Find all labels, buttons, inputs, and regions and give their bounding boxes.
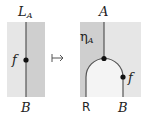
right-region (26, 22, 45, 97)
right-top-label: A (99, 5, 108, 18)
right-bottom-right-label: B (118, 101, 128, 114)
morphism-dot (23, 57, 28, 62)
right-bottom-left-label: R (82, 101, 90, 113)
maps-to-arrow (52, 54, 63, 62)
unit-dot (101, 56, 106, 61)
left-bottom-label: B (21, 101, 31, 114)
morphism-dot (120, 74, 125, 79)
left-top-label: LA (18, 5, 32, 20)
unit-label: ηA (80, 30, 94, 45)
right-morphism-label: f (128, 71, 133, 84)
left-morphism-label: f (12, 53, 17, 66)
